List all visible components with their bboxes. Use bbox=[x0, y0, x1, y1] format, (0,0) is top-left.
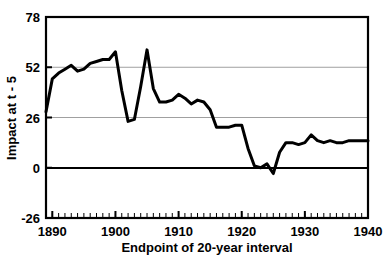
x-tick-label: 1940 bbox=[354, 224, 383, 239]
y-axis-title: Impact at t - 5 bbox=[4, 76, 19, 160]
y-tick-label: 52 bbox=[26, 60, 40, 75]
x-tick-label: 1920 bbox=[227, 224, 256, 239]
chart-svg: -260265278 189019001910192019301940 Impa… bbox=[0, 0, 383, 256]
x-axis-tick-labels: 189019001910192019301940 bbox=[38, 224, 383, 239]
x-tick-label: 1910 bbox=[164, 224, 193, 239]
x-tick-label: 1930 bbox=[290, 224, 319, 239]
x-tick-label: 1900 bbox=[101, 224, 130, 239]
x-axis-title: Endpoint of 20-year interval bbox=[121, 240, 292, 255]
x-tick-label: 1890 bbox=[38, 224, 67, 239]
y-tick-label: 26 bbox=[26, 111, 40, 126]
y-axis-tick-labels: -260265278 bbox=[21, 10, 40, 226]
chart-figure: -260265278 189019001910192019301940 Impa… bbox=[0, 0, 383, 256]
y-tick-label: 78 bbox=[26, 10, 40, 25]
y-tick-label: 0 bbox=[33, 161, 40, 176]
